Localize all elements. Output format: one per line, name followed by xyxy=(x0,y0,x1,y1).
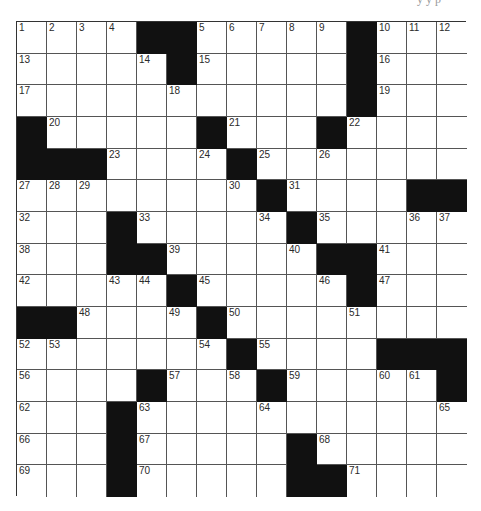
grid-cell[interactable]: 18 xyxy=(167,85,197,117)
grid-cell[interactable] xyxy=(137,149,167,181)
grid-cell[interactable] xyxy=(287,85,317,117)
grid-cell[interactable] xyxy=(47,85,77,117)
grid-cell[interactable]: 35 xyxy=(317,212,347,244)
grid-cell[interactable] xyxy=(377,149,407,181)
grid-cell[interactable] xyxy=(257,275,287,307)
grid-cell[interactable] xyxy=(137,117,167,149)
grid-cell[interactable] xyxy=(197,180,227,212)
grid-cell[interactable] xyxy=(257,465,287,497)
grid-cell[interactable]: 44 xyxy=(137,275,167,307)
grid-cell[interactable] xyxy=(77,339,107,371)
grid-cell[interactable] xyxy=(167,117,197,149)
grid-cell[interactable] xyxy=(47,275,77,307)
grid-cell[interactable]: 6 xyxy=(227,22,257,54)
grid-cell[interactable] xyxy=(377,212,407,244)
grid-cell[interactable] xyxy=(377,307,407,339)
grid-cell[interactable] xyxy=(227,465,257,497)
grid-cell[interactable] xyxy=(287,149,317,181)
grid-cell[interactable] xyxy=(347,180,377,212)
grid-cell[interactable]: 33 xyxy=(137,212,167,244)
grid-cell[interactable]: 61 xyxy=(407,370,437,402)
grid-cell[interactable] xyxy=(407,307,437,339)
grid-cell[interactable] xyxy=(227,212,257,244)
grid-cell[interactable] xyxy=(77,434,107,466)
grid-cell[interactable]: 32 xyxy=(17,212,47,244)
grid-cell[interactable]: 30 xyxy=(227,180,257,212)
grid-cell[interactable]: 65 xyxy=(437,402,467,434)
grid-cell[interactable] xyxy=(437,85,467,117)
grid-cell[interactable]: 56 xyxy=(17,370,47,402)
grid-cell[interactable]: 20 xyxy=(47,117,77,149)
grid-cell[interactable]: 1 xyxy=(17,22,47,54)
grid-cell[interactable]: 37 xyxy=(437,212,467,244)
grid-cell[interactable]: 26 xyxy=(317,149,347,181)
grid-cell[interactable]: 16 xyxy=(377,54,407,86)
grid-cell[interactable]: 15 xyxy=(197,54,227,86)
grid-cell[interactable] xyxy=(347,370,377,402)
grid-cell[interactable]: 28 xyxy=(47,180,77,212)
grid-cell[interactable]: 57 xyxy=(167,370,197,402)
grid-cell[interactable] xyxy=(77,117,107,149)
grid-cell[interactable]: 50 xyxy=(227,307,257,339)
grid-cell[interactable] xyxy=(77,244,107,276)
grid-cell[interactable] xyxy=(77,465,107,497)
grid-cell[interactable] xyxy=(227,402,257,434)
grid-cell[interactable]: 41 xyxy=(377,244,407,276)
grid-cell[interactable] xyxy=(227,85,257,117)
grid-cell[interactable]: 29 xyxy=(77,180,107,212)
grid-cell[interactable]: 24 xyxy=(197,149,227,181)
grid-cell[interactable]: 7 xyxy=(257,22,287,54)
grid-cell[interactable] xyxy=(317,339,347,371)
grid-cell[interactable] xyxy=(407,275,437,307)
grid-cell[interactable] xyxy=(167,465,197,497)
grid-cell[interactable] xyxy=(437,434,467,466)
grid-cell[interactable]: 48 xyxy=(77,307,107,339)
grid-cell[interactable] xyxy=(407,149,437,181)
grid-cell[interactable] xyxy=(137,85,167,117)
grid-cell[interactable]: 31 xyxy=(287,180,317,212)
grid-cell[interactable]: 43 xyxy=(107,275,137,307)
grid-cell[interactable] xyxy=(167,180,197,212)
grid-cell[interactable]: 9 xyxy=(317,22,347,54)
grid-cell[interactable] xyxy=(77,212,107,244)
grid-cell[interactable]: 23 xyxy=(107,149,137,181)
grid-cell[interactable] xyxy=(317,307,347,339)
grid-cell[interactable] xyxy=(407,402,437,434)
grid-cell[interactable] xyxy=(197,370,227,402)
grid-cell[interactable] xyxy=(47,54,77,86)
grid-cell[interactable] xyxy=(167,212,197,244)
grid-cell[interactable] xyxy=(167,339,197,371)
grid-cell[interactable]: 36 xyxy=(407,212,437,244)
grid-cell[interactable]: 8 xyxy=(287,22,317,54)
grid-cell[interactable] xyxy=(197,244,227,276)
grid-cell[interactable] xyxy=(137,180,167,212)
grid-cell[interactable] xyxy=(407,54,437,86)
grid-cell[interactable] xyxy=(137,307,167,339)
grid-cell[interactable]: 63 xyxy=(137,402,167,434)
grid-cell[interactable] xyxy=(197,465,227,497)
grid-cell[interactable]: 55 xyxy=(257,339,287,371)
grid-cell[interactable] xyxy=(317,402,347,434)
grid-cell[interactable]: 49 xyxy=(167,307,197,339)
grid-cell[interactable] xyxy=(47,434,77,466)
grid-cell[interactable] xyxy=(197,434,227,466)
grid-cell[interactable] xyxy=(107,180,137,212)
grid-cell[interactable]: 19 xyxy=(377,85,407,117)
grid-cell[interactable]: 5 xyxy=(197,22,227,54)
grid-cell[interactable] xyxy=(347,402,377,434)
grid-cell[interactable] xyxy=(77,85,107,117)
grid-cell[interactable] xyxy=(77,54,107,86)
grid-cell[interactable] xyxy=(287,275,317,307)
grid-cell[interactable] xyxy=(317,54,347,86)
grid-cell[interactable] xyxy=(437,275,467,307)
grid-cell[interactable]: 67 xyxy=(137,434,167,466)
grid-cell[interactable]: 14 xyxy=(137,54,167,86)
grid-cell[interactable]: 46 xyxy=(317,275,347,307)
grid-cell[interactable] xyxy=(197,212,227,244)
grid-cell[interactable] xyxy=(347,339,377,371)
grid-cell[interactable] xyxy=(107,85,137,117)
grid-cell[interactable]: 58 xyxy=(227,370,257,402)
grid-cell[interactable] xyxy=(257,434,287,466)
grid-cell[interactable]: 54 xyxy=(197,339,227,371)
grid-cell[interactable]: 53 xyxy=(47,339,77,371)
